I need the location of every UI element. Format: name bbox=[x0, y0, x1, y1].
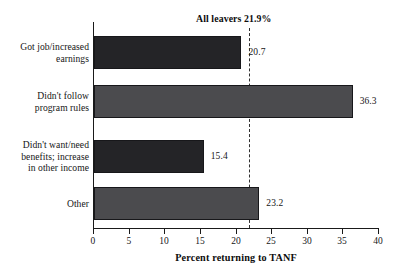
bar-chart: All leavers 21.9% 20.736.315.423.2 Got j… bbox=[0, 0, 400, 271]
category-label-line: Other bbox=[0, 198, 89, 209]
x-axis-title: Percent returning to TANF bbox=[93, 252, 379, 263]
x-axis-tick bbox=[271, 229, 272, 234]
category-label-line: Didn't follow bbox=[0, 90, 89, 101]
x-axis-tick-label: 15 bbox=[187, 236, 213, 247]
bar bbox=[94, 140, 204, 173]
category-label: Didn't followprogram rules bbox=[0, 90, 89, 113]
bar-value-label: 15.4 bbox=[211, 151, 228, 162]
x-axis-tick bbox=[93, 229, 94, 234]
x-axis-tick-label: 25 bbox=[258, 236, 284, 247]
x-axis-tick bbox=[342, 229, 343, 234]
bar bbox=[94, 36, 241, 69]
x-axis-tick bbox=[200, 229, 201, 234]
x-axis-tick bbox=[129, 229, 130, 234]
x-axis-tick-label: 35 bbox=[329, 236, 355, 247]
x-axis-tick-label: 40 bbox=[365, 236, 391, 247]
x-axis-tick bbox=[307, 229, 308, 234]
bar bbox=[94, 85, 353, 118]
x-axis-tick bbox=[164, 229, 165, 234]
reference-line-label: All leavers 21.9% bbox=[196, 13, 271, 25]
category-label-line: earnings bbox=[0, 53, 89, 64]
category-label: Got job/increasedearnings bbox=[0, 41, 89, 64]
x-axis-tick bbox=[236, 229, 237, 234]
category-label-line: Got job/increased bbox=[0, 41, 89, 52]
category-label: Didn't want/needbenefits; increasein oth… bbox=[0, 139, 89, 173]
x-axis-tick-label: 30 bbox=[294, 236, 320, 247]
category-label: Other bbox=[0, 198, 89, 209]
x-axis-tick-label: 20 bbox=[223, 236, 249, 247]
x-axis-tick-label: 5 bbox=[116, 236, 142, 247]
bar-value-label: 20.7 bbox=[248, 47, 265, 58]
category-label-line: Didn't want/need bbox=[0, 139, 89, 150]
bar bbox=[94, 187, 259, 220]
bar-value-label: 23.2 bbox=[266, 198, 283, 209]
x-axis-tick-label: 10 bbox=[151, 236, 177, 247]
x-axis-tick-label: 0 bbox=[80, 236, 106, 247]
category-label-line: in other income bbox=[0, 162, 89, 173]
category-label-line: program rules bbox=[0, 102, 89, 113]
category-label-line: benefits; increase bbox=[0, 151, 89, 162]
bar-value-label: 36.3 bbox=[360, 96, 377, 107]
x-axis-tick bbox=[378, 229, 379, 234]
